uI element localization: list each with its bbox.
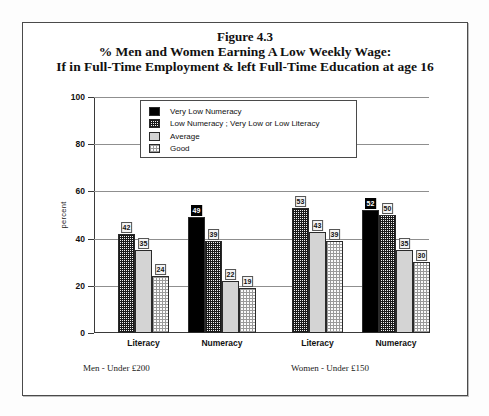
bar-value-label: 30 xyxy=(416,250,428,261)
bar-men-literacy-2 xyxy=(152,276,169,333)
y-tick-20 xyxy=(88,286,94,287)
bar-value-label: 35 xyxy=(399,238,411,249)
bar-value-label: 49 xyxy=(191,205,203,216)
panel-caption-men: Men - Under £200 xyxy=(83,363,150,373)
y-tick-label-80: 80 xyxy=(76,139,85,149)
y-tick-label-100: 100 xyxy=(71,92,85,102)
legend-item-label: Very Low Numeracy xyxy=(170,107,242,116)
bar-value-label: 53 xyxy=(295,196,307,207)
legend-item-0: Very Low Numeracy xyxy=(149,105,242,117)
legend-swatch-icon xyxy=(149,119,160,128)
bar-value-label: 19 xyxy=(242,276,254,287)
legend-item-3: Good xyxy=(149,143,190,155)
y-axis-title: percent xyxy=(59,201,68,228)
bar-women-literacy-2 xyxy=(326,241,343,333)
figure-title-line3: If in Full-Time Employment & left Full-T… xyxy=(23,59,467,74)
gridline-60 xyxy=(94,191,429,192)
y-tick-label-40: 40 xyxy=(76,234,85,244)
legend-item-label: Low Numeracy ; Very Low or Low Literacy xyxy=(170,119,319,128)
y-tick-40 xyxy=(88,239,94,240)
figure-page: Figure 4.3 % Men and Women Earning A Low… xyxy=(0,0,489,416)
figure-title-line2: % Men and Women Earning A Low Weekly Wag… xyxy=(23,44,467,59)
bar-women-numeracy-2 xyxy=(396,250,413,333)
chart-legend: Very Low NumeracyLow Numeracy ; Very Low… xyxy=(140,100,357,158)
panel-caption-women: Women - Under £150 xyxy=(291,363,369,373)
bar-women-literacy-1 xyxy=(309,232,326,333)
y-tick-label-60: 60 xyxy=(76,186,85,196)
y-tick-60 xyxy=(88,191,94,192)
y-tick-label-20: 20 xyxy=(76,281,85,291)
legend-item-label: Good xyxy=(170,144,190,153)
bar-women-numeracy-3 xyxy=(413,262,430,333)
bar-value-label: 24 xyxy=(155,264,167,275)
figure-number: Figure 4.3 xyxy=(23,29,467,44)
legend-swatch-icon xyxy=(149,107,160,116)
gridline-100 xyxy=(94,97,429,98)
bar-value-label: 39 xyxy=(329,229,341,240)
y-tick-80 xyxy=(88,144,94,145)
bar-value-label: 52 xyxy=(365,198,377,209)
legend-item-1: Low Numeracy ; Very Low or Low Literacy xyxy=(149,118,319,130)
bar-value-label: 22 xyxy=(225,269,237,280)
bar-value-label: 43 xyxy=(312,220,324,231)
figure-title: Figure 4.3 % Men and Women Earning A Low… xyxy=(23,29,467,74)
bar-men-literacy-0 xyxy=(118,234,135,333)
x-axis-label-women-literacy: Literacy xyxy=(301,338,334,348)
bar-men-numeracy-0 xyxy=(188,217,205,333)
legend-swatch-icon xyxy=(149,132,160,141)
y-tick-100 xyxy=(88,97,94,98)
bar-men-numeracy-2 xyxy=(222,281,239,333)
bar-value-label: 39 xyxy=(208,229,220,240)
bar-women-numeracy-0 xyxy=(362,210,379,333)
y-tick-label-0: 0 xyxy=(80,328,85,338)
x-axis-label-men-numeracy: Numeracy xyxy=(201,338,242,348)
figure-frame: Figure 4.3 % Men and Women Earning A Low… xyxy=(22,22,468,396)
bar-men-numeracy-1 xyxy=(205,241,222,333)
y-tick-0 xyxy=(88,333,94,334)
chart-plot-area: percent 020406080100 4235244939221953433… xyxy=(94,97,429,333)
legend-swatch-icon xyxy=(149,144,160,153)
legend-item-2: Average xyxy=(149,130,200,142)
bar-value-label: 50 xyxy=(382,203,394,214)
bar-women-literacy-0 xyxy=(292,208,309,333)
x-axis-label-women-numeracy: Numeracy xyxy=(375,338,416,348)
bar-men-literacy-1 xyxy=(135,250,152,333)
bar-value-label: 35 xyxy=(138,238,150,249)
bar-men-numeracy-3 xyxy=(239,288,256,333)
bar-women-numeracy-1 xyxy=(379,215,396,333)
bar-value-label: 42 xyxy=(121,222,133,233)
x-axis-label-men-literacy: Literacy xyxy=(127,338,160,348)
legend-item-label: Average xyxy=(170,132,200,141)
